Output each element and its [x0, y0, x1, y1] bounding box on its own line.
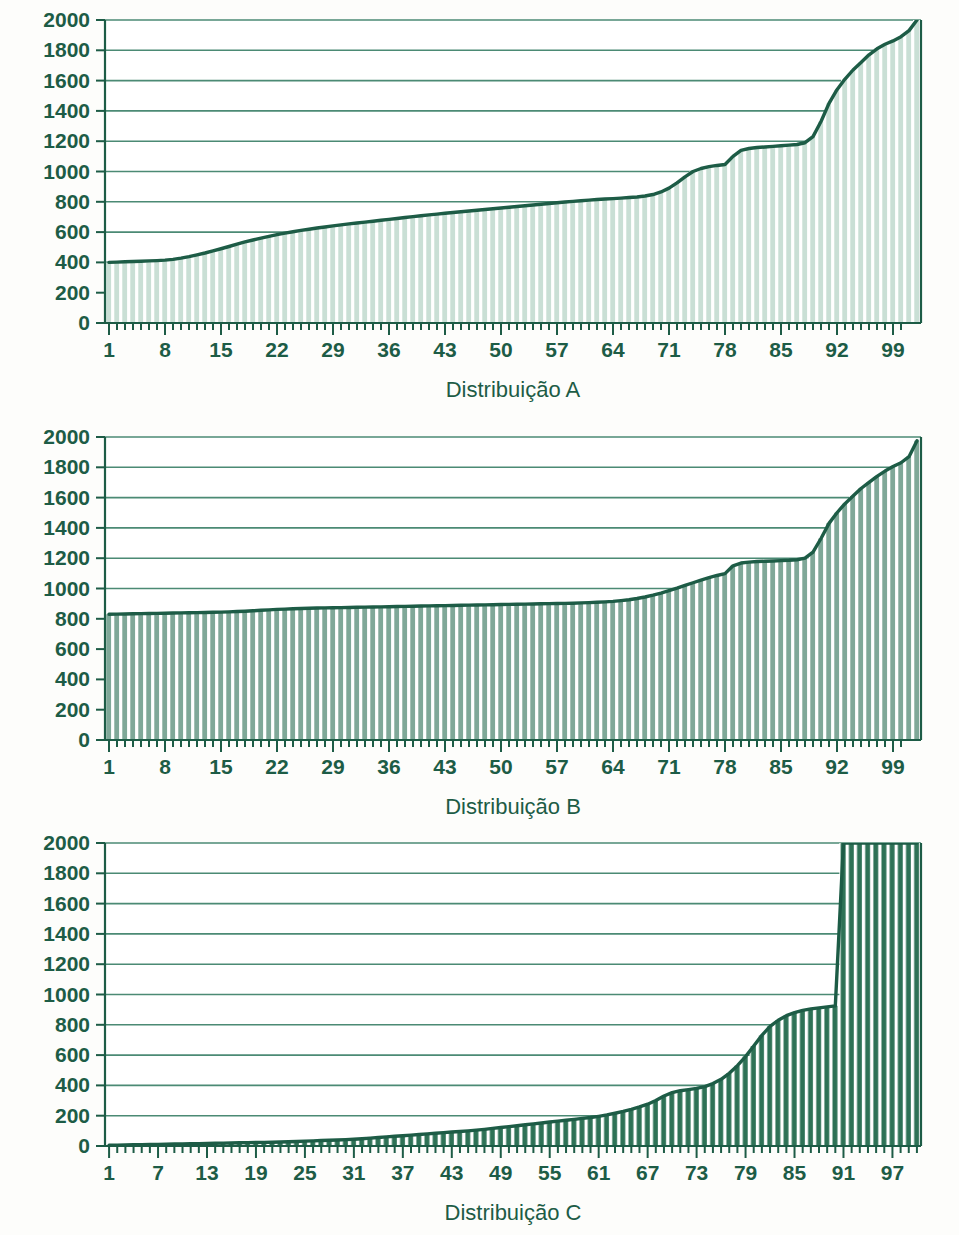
- x-axis-title: Distribuição B: [445, 794, 581, 819]
- chart-panel-distribuicao-c: 2000180016001400120010008006004002000171…: [0, 825, 959, 1235]
- y-tick-label-2000: 2000: [43, 425, 90, 448]
- y-tick-label-0: 0: [78, 311, 90, 334]
- x-tick-label-64: 64: [601, 755, 625, 778]
- x-tick-label-97: 97: [881, 1161, 904, 1184]
- x-tick-label-85: 85: [783, 1161, 807, 1184]
- x-tick-label-8: 8: [159, 755, 171, 778]
- y-tick-label-1600: 1600: [43, 486, 90, 509]
- chart-panel-distribuicao-b: 2000180016001400120010008006004002000181…: [0, 425, 959, 825]
- x-tick-label-13: 13: [195, 1161, 218, 1184]
- y-tick-label-200: 200: [55, 698, 90, 721]
- y-tick-label-1800: 1800: [43, 861, 90, 884]
- y-tick-label-1000: 1000: [43, 983, 90, 1006]
- y-tick-label-1200: 1200: [43, 129, 90, 152]
- x-tick-label-43: 43: [433, 755, 456, 778]
- y-tick-label-1000: 1000: [43, 577, 90, 600]
- x-tick-label-22: 22: [265, 338, 288, 361]
- y-tick-label-1200: 1200: [43, 952, 90, 975]
- x-tick-label-43: 43: [440, 1161, 463, 1184]
- x-tick-label-57: 57: [545, 755, 568, 778]
- x-tick-label-73: 73: [685, 1161, 708, 1184]
- y-tick-label-1400: 1400: [43, 99, 90, 122]
- y-tick-label-800: 800: [55, 1013, 90, 1036]
- y-tick-label-600: 600: [55, 1043, 90, 1066]
- chart-panel-distribuicao-a: 2000180016001400120010008006004002000181…: [0, 0, 959, 425]
- x-tick-label-8: 8: [159, 338, 171, 361]
- x-tick-label-7: 7: [152, 1161, 164, 1184]
- x-tick-label-85: 85: [769, 755, 793, 778]
- x-tick-label-50: 50: [489, 338, 512, 361]
- y-tick-label-1200: 1200: [43, 546, 90, 569]
- x-tick-label-64: 64: [601, 338, 625, 361]
- y-tick-label-2000: 2000: [43, 831, 90, 854]
- y-tick-label-800: 800: [55, 190, 90, 213]
- y-tick-label-1400: 1400: [43, 922, 90, 945]
- x-tick-label-36: 36: [377, 755, 400, 778]
- y-tick-label-1800: 1800: [43, 38, 90, 61]
- chart-distribuicao-b: 2000180016001400120010008006004002000181…: [0, 425, 959, 825]
- y-tick-label-400: 400: [55, 250, 90, 273]
- chart-distribuicao-a: 2000180016001400120010008006004002000181…: [0, 0, 959, 425]
- x-tick-label-85: 85: [769, 338, 793, 361]
- x-tick-label-71: 71: [657, 755, 681, 778]
- x-tick-label-57: 57: [545, 338, 568, 361]
- x-tick-label-71: 71: [657, 338, 681, 361]
- x-tick-label-92: 92: [825, 755, 848, 778]
- y-tick-label-400: 400: [55, 1073, 90, 1096]
- x-tick-label-22: 22: [265, 755, 288, 778]
- x-tick-label-25: 25: [293, 1161, 317, 1184]
- x-tick-label-1: 1: [103, 755, 115, 778]
- x-tick-label-91: 91: [832, 1161, 856, 1184]
- y-tick-label-1400: 1400: [43, 516, 90, 539]
- x-tick-label-78: 78: [713, 755, 737, 778]
- x-tick-label-31: 31: [342, 1161, 366, 1184]
- y-tick-label-200: 200: [55, 1104, 90, 1127]
- x-tick-label-29: 29: [321, 755, 344, 778]
- x-tick-label-50: 50: [489, 755, 512, 778]
- y-tick-label-600: 600: [55, 220, 90, 243]
- x-tick-label-1: 1: [103, 338, 115, 361]
- y-tick-label-2000: 2000: [43, 8, 90, 31]
- y-tick-label-800: 800: [55, 607, 90, 630]
- y-tick-label-200: 200: [55, 281, 90, 304]
- x-tick-label-29: 29: [321, 338, 344, 361]
- x-tick-label-55: 55: [538, 1161, 562, 1184]
- y-tick-label-1800: 1800: [43, 455, 90, 478]
- figure-page: 2000180016001400120010008006004002000181…: [0, 0, 959, 1235]
- y-tick-label-0: 0: [78, 728, 90, 751]
- x-tick-label-99: 99: [881, 338, 904, 361]
- x-tick-label-92: 92: [825, 338, 848, 361]
- y-tick-label-600: 600: [55, 637, 90, 660]
- y-tick-label-1600: 1600: [43, 69, 90, 92]
- x-tick-label-19: 19: [244, 1161, 267, 1184]
- x-tick-label-15: 15: [209, 338, 233, 361]
- x-axis-title: Distribuição C: [445, 1200, 582, 1225]
- x-tick-label-49: 49: [489, 1161, 512, 1184]
- x-tick-label-78: 78: [713, 338, 737, 361]
- x-tick-label-99: 99: [881, 755, 904, 778]
- y-tick-label-0: 0: [78, 1134, 90, 1157]
- x-tick-label-36: 36: [377, 338, 400, 361]
- y-tick-label-1000: 1000: [43, 160, 90, 183]
- y-tick-label-1600: 1600: [43, 892, 90, 915]
- x-tick-label-67: 67: [636, 1161, 659, 1184]
- x-tick-label-37: 37: [391, 1161, 414, 1184]
- x-tick-label-61: 61: [587, 1161, 611, 1184]
- x-tick-label-15: 15: [209, 755, 233, 778]
- x-tick-label-1: 1: [103, 1161, 115, 1184]
- x-tick-label-79: 79: [734, 1161, 757, 1184]
- y-tick-label-400: 400: [55, 667, 90, 690]
- x-tick-label-43: 43: [433, 338, 456, 361]
- chart-distribuicao-c: 2000180016001400120010008006004002000171…: [0, 825, 959, 1235]
- x-axis-title: Distribuição A: [446, 377, 581, 402]
